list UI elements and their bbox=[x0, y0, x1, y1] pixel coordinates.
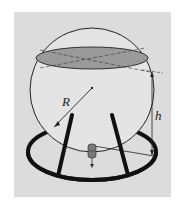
drain-arrow-icon bbox=[90, 164, 94, 168]
height-arrow-bottom bbox=[150, 150, 154, 155]
center-point bbox=[91, 87, 93, 89]
tank-diagram bbox=[0, 0, 178, 213]
height-label: h bbox=[155, 108, 162, 124]
radius-label: R bbox=[62, 94, 70, 110]
